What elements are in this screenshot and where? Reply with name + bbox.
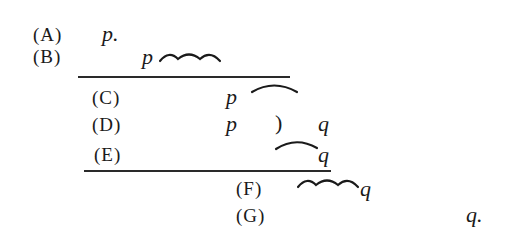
line-label-a: (A) [33, 25, 62, 44]
formula-b-p: p [142, 46, 153, 68]
formula-c-p: p [226, 86, 237, 108]
formula-e-q: q [318, 144, 329, 166]
formula-f-q: q [360, 178, 371, 200]
arc-connective-icon [250, 83, 300, 95]
line-label-g: (G) [236, 206, 265, 225]
arc-connective-icon [274, 139, 320, 151]
formula-d-q: q [318, 113, 329, 135]
line-label-c: (C) [92, 88, 120, 107]
line-label-f: (F) [236, 179, 262, 198]
line-label-b: (B) [33, 47, 61, 66]
line-label-e: (E) [94, 145, 121, 164]
inference-rule-2 [84, 170, 331, 172]
inference-rule-1 [78, 76, 290, 78]
formula-g-q: q. [466, 204, 483, 226]
triple-tilde-icon [296, 176, 360, 190]
line-label-d: (D) [92, 115, 121, 134]
formula-a-p: p. [102, 23, 119, 45]
triple-tilde-icon [158, 50, 222, 64]
formula-d-p: p [226, 113, 237, 135]
horseshoe-paren: ) [275, 112, 282, 134]
